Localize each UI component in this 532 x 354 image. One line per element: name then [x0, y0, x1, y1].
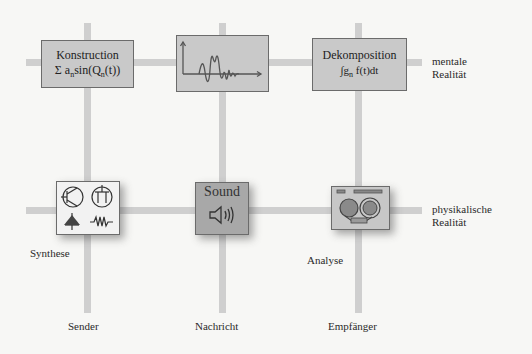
analyse-caption: Analyse [307, 254, 343, 267]
dekomposition-box: Dekomposition ∫gn f(t)dt [312, 38, 407, 91]
analyse-box [331, 186, 390, 230]
konstruction-title: Konstruction [42, 48, 133, 63]
sender-label: Sender [68, 320, 99, 333]
sound-box: Sound [195, 182, 249, 235]
empfaenger-label: Empfänger [328, 320, 377, 333]
sound-title: Sound [196, 184, 248, 200]
mental-reality-label: mentale Realität [432, 55, 467, 81]
synthese-caption: Synthese [30, 247, 70, 260]
signal-plot-box [176, 35, 269, 92]
dekomposition-title: Dekomposition [313, 48, 406, 63]
tape-recorder-icon [332, 187, 389, 229]
konstruction-box: Konstruction Σ ansin(Qn(t)) [41, 40, 134, 88]
waveform-plot-icon [177, 36, 267, 90]
physical-reality-label: physikalische Realität [432, 203, 492, 229]
konstruction-formula: Σ ansin(Qn(t)) [42, 63, 133, 82]
speaker-icon [205, 203, 239, 227]
circuit-symbols-icon [57, 182, 119, 234]
synthese-box [56, 181, 120, 235]
nachricht-label: Nachricht [195, 320, 238, 333]
dekomposition-formula: ∫gn f(t)dt [313, 63, 406, 82]
